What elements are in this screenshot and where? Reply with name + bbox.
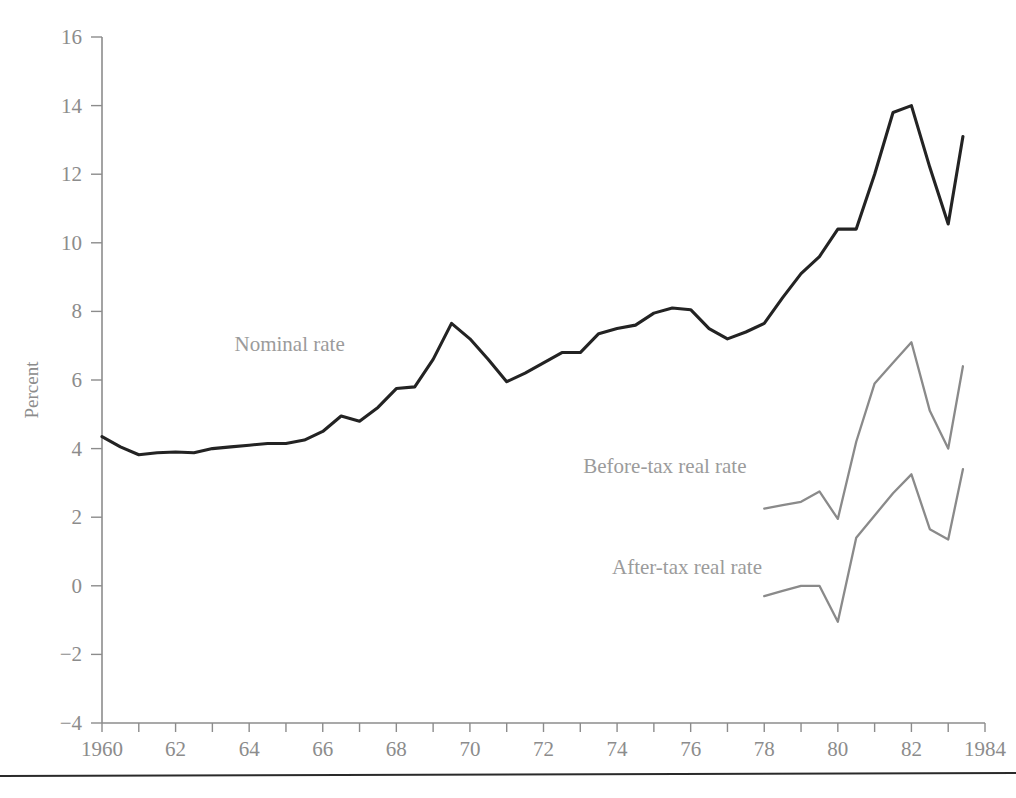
series-label-after-tax-real-rate: After-tax real rate: [612, 555, 762, 579]
x-tick-label: 80: [827, 737, 848, 761]
x-tick-label: 76: [680, 737, 701, 761]
data-series-group: [102, 106, 963, 622]
y-axis-title: Percent: [21, 361, 42, 419]
x-tick-label: 78: [754, 737, 775, 761]
y-tick-label: 10: [61, 231, 82, 255]
interest-rate-line-chart: −4−20246810121416 1960626466687072747678…: [0, 0, 1016, 798]
x-axis: 196062646668707274767880821984: [81, 723, 1007, 761]
x-tick-label: 64: [239, 737, 261, 761]
figure-container: −4−20246810121416 1960626466687072747678…: [0, 0, 1016, 798]
x-tick-label: 72: [533, 737, 554, 761]
y-tick-label: 14: [61, 94, 83, 118]
x-tick-label: 66: [312, 737, 333, 761]
x-tick-label: 82: [901, 737, 922, 761]
x-tick-label: 62: [165, 737, 186, 761]
series-line-before-tax-real-rate: [764, 342, 963, 519]
x-tick-label: 1960: [81, 737, 123, 761]
series-line-nominal-rate: [102, 106, 963, 455]
y-tick-label: 8: [72, 299, 83, 323]
y-tick-label: 2: [72, 505, 83, 529]
y-axis: −4−20246810121416: [60, 25, 102, 735]
series-label-nominal-rate: Nominal rate: [235, 332, 345, 356]
x-tick-label: 74: [607, 737, 629, 761]
y-tick-label: −4: [60, 711, 83, 735]
x-tick-label: 1984: [964, 737, 1007, 761]
x-tick-label: 68: [386, 737, 407, 761]
footer-divider-rule: [0, 773, 1016, 776]
series-annotations-group: Nominal rateBefore-tax real rateAfter-ta…: [235, 332, 762, 579]
x-tick-label: 70: [459, 737, 480, 761]
y-tick-label: −2: [60, 642, 82, 666]
y-tick-label: 16: [61, 25, 82, 49]
series-line-after-tax-real-rate: [764, 469, 963, 622]
y-tick-label: 12: [61, 162, 82, 186]
y-tick-label: 4: [72, 437, 83, 461]
series-label-before-tax-real-rate: Before-tax real rate: [583, 454, 746, 478]
y-tick-label: 0: [72, 574, 83, 598]
y-tick-label: 6: [72, 368, 83, 392]
